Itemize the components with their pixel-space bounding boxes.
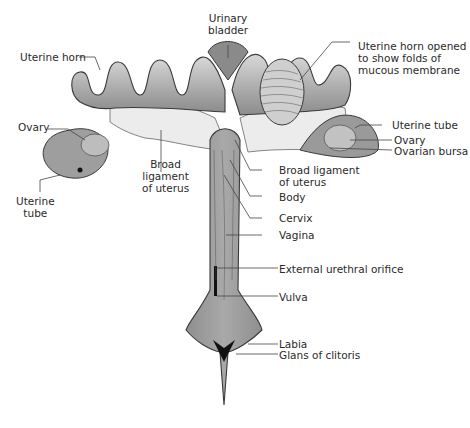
label-uterine-horn-opened: Uterine horn opened to show folds of muc… [358, 40, 466, 76]
label-uterine-tube-left: Uterine tube [16, 195, 55, 219]
label-vagina: Vagina [279, 229, 314, 241]
label-glans-of-clitoris: Glans of clitoris [279, 349, 360, 361]
ovary-right-shape [324, 125, 356, 151]
opened-horn-folds-shape [260, 59, 304, 125]
label-ovarian-bursa: Ovarian bursa [394, 145, 468, 157]
label-cervix: Cervix [279, 212, 312, 224]
label-uterine-horn: Uterine horn [20, 51, 86, 63]
label-body: Body [279, 191, 306, 203]
label-broad-ligament-left: Broad ligament of uterus [142, 158, 189, 194]
label-urinary-bladder: Urinary bladder [208, 12, 248, 36]
uterine-horn-left-shape [72, 57, 225, 112]
label-uterine-tube-right: Uterine tube [392, 119, 458, 131]
label-external-urethral-orifice: External urethral orifice [279, 263, 403, 275]
reproductive-tract-diagram: Urinary bladder Uterine horn Uterine hor… [0, 0, 470, 428]
label-vulva: Vulva [279, 291, 308, 303]
label-ovary-left: Ovary [18, 121, 49, 133]
external-urethral-orifice-shape [214, 266, 217, 296]
label-broad-ligament-right: Broad ligament of uterus [279, 164, 360, 188]
